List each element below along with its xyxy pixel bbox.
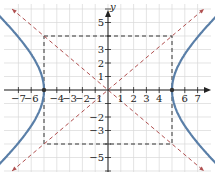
x-tick-label: −1	[88, 93, 103, 104]
x-tick-label: −6	[24, 93, 39, 104]
y-tick-label: −5	[89, 152, 104, 163]
vertex-point	[42, 88, 46, 92]
x-tick-label: 1	[118, 93, 124, 104]
hyperbola-graph: −7−6−4−3−2−11234675321−2−3−5 y	[0, 0, 215, 176]
vertex-point	[170, 88, 174, 92]
coordinate-axes	[4, 9, 211, 172]
y-tick-label: 1	[98, 71, 104, 82]
x-tick-label: 6	[182, 93, 188, 104]
x-tick-label: 7	[194, 93, 200, 104]
y-tick-label: −3	[89, 125, 104, 136]
x-tick-label: 2	[130, 93, 136, 104]
y-axis-label: y	[109, 1, 116, 12]
y-tick-label: 5	[98, 17, 104, 28]
x-tick-label: 4	[156, 93, 162, 104]
y-tick-label: 2	[98, 58, 104, 69]
x-tick-label: 3	[143, 93, 149, 104]
y-tick-label: −2	[89, 112, 104, 123]
y-tick-label: 3	[98, 44, 104, 55]
